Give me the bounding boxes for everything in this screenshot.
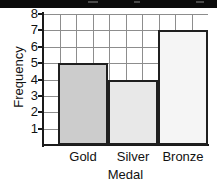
bar-chart: 87654321 Frequency Medal GoldSilverBronz…: [0, 0, 217, 191]
chart-screenshot: 87654321 Frequency Medal GoldSilverBronz…: [0, 0, 217, 191]
x-axis-tick-label-bronze: Bronze: [150, 150, 216, 164]
y-axis-tick: [38, 62, 44, 64]
x-axis-title: Medal: [43, 168, 208, 182]
y-axis-tick: [38, 111, 44, 113]
y-axis-title: Frequency: [12, 29, 26, 125]
bar-gold: [58, 63, 108, 145]
y-axis-tick: [38, 29, 44, 31]
y-axis-tick: [38, 46, 44, 48]
bar-bronze: [158, 30, 208, 145]
bar-silver: [108, 80, 158, 146]
y-axis-tick: [38, 13, 44, 15]
y-axis-tick: [38, 95, 44, 97]
y-axis-tick: [38, 79, 44, 81]
y-axis-tick: [38, 128, 44, 130]
y-axis-tick-label: 8: [4, 7, 38, 20]
